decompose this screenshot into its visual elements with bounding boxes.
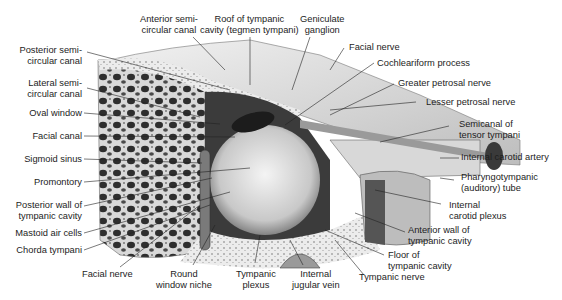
label-line: cavity (tegmen tympani) (200, 25, 299, 36)
label-roof-of-tympanic-cavity: Roof of tympanic cavity (tegmen tympani) (200, 14, 299, 36)
label-sigmoid-sinus: Sigmoid sinus (24, 154, 82, 165)
label-lateral-semicircular-canal: Lateral semi- circular canal (27, 78, 82, 100)
label-facial-canal: Facial canal (32, 131, 82, 142)
label-line: Lateral semi- (27, 78, 82, 89)
label-line: Roof of tympanic (200, 14, 299, 25)
label-internal-jugular-vein: Internal jugular vein (292, 269, 340, 291)
label-line: window niche (156, 280, 212, 291)
label-greater-petrosal-nerve: Greater petrosal nerve (398, 78, 491, 89)
label-line: circular canal (27, 89, 82, 100)
label-internal-carotid-artery: Internal carotid artery (461, 152, 549, 163)
label-line: ganglion (300, 25, 344, 36)
label-line: Semicanal of (459, 119, 520, 130)
label-line: Tympanic (236, 269, 276, 280)
label-line: tympanic cavity (16, 211, 82, 222)
label-line: Geniculate (300, 14, 344, 25)
label-anterior-wall: Anterior wall of tympanic cavity (408, 225, 472, 247)
label-line: Internal carotid artery (461, 152, 549, 163)
label-cochleariform-process: Cochleariform process (377, 58, 470, 69)
label-line: Oval window (29, 108, 82, 119)
label-facial-nerve-top: Facial nerve (349, 42, 400, 53)
label-line: Internal (292, 269, 340, 280)
label-floor-of-tympanic-cavity: Floor of tympanic cavity (388, 250, 452, 272)
label-semicanal-tensor-tympani: Semicanal of tensor tympani (459, 119, 520, 141)
tympanic-cavity-illustration (0, 0, 562, 300)
label-pharyngotympanic-tube: Pharyngotympanic (auditory) tube (461, 172, 538, 194)
label-facial-nerve-bottom: Facial nerve (82, 269, 133, 280)
label-mastoid-air-cells: Mastoid air cells (15, 228, 82, 239)
label-line: Cochleariform process (377, 58, 470, 69)
label-anterior-semicircular-canal: Anterior semi- circular canal (140, 14, 198, 36)
label-line: Anterior semi- (140, 14, 198, 25)
label-line: Lesser petrosal nerve (426, 97, 515, 108)
label-line: Posterior wall of (16, 200, 82, 211)
label-line: tympanic cavity (408, 236, 472, 247)
label-line: tympanic cavity (388, 261, 452, 272)
label-line: jugular vein (292, 280, 340, 291)
label-line: Pharyngotympanic (461, 172, 538, 183)
label-internal-carotid-plexus: Internal carotid plexus (449, 200, 506, 222)
label-chorda-tympani: Chorda tympani (16, 245, 82, 256)
label-geniculate-ganglion: Geniculate ganglion (300, 14, 344, 36)
label-line: Promontory (34, 177, 82, 188)
label-line: tensor tympani (459, 130, 520, 141)
label-line: Mastoid air cells (15, 228, 82, 239)
label-posterior-wall: Posterior wall of tympanic cavity (16, 200, 82, 222)
label-line: Floor of (388, 250, 452, 261)
label-line: Anterior wall of (408, 225, 472, 236)
label-line: Round (156, 269, 212, 280)
label-posterior-semicircular-canal: Posterior semi- circular canal (19, 45, 82, 67)
label-line: Sigmoid sinus (24, 154, 82, 165)
label-oval-window: Oval window (29, 108, 82, 119)
label-line: (auditory) tube (461, 183, 538, 194)
label-tympanic-plexus: Tympanic plexus (236, 269, 276, 291)
label-line: Facial canal (32, 131, 82, 142)
label-line: Facial nerve (349, 42, 400, 53)
label-promontory: Promontory (34, 177, 82, 188)
label-line: Chorda tympani (16, 245, 82, 256)
label-tympanic-nerve: Tympanic nerve (359, 272, 425, 283)
label-line: Greater petrosal nerve (398, 78, 491, 89)
label-line: Facial nerve (82, 269, 133, 280)
label-line: plexus (236, 280, 276, 291)
label-line: circular canal (140, 25, 198, 36)
label-line: Posterior semi- (19, 45, 82, 56)
label-line: Tympanic nerve (359, 272, 425, 283)
label-lesser-petrosal-nerve: Lesser petrosal nerve (426, 97, 515, 108)
label-round-window-niche: Round window niche (156, 269, 212, 291)
anatomy-figure: Anterior semi- circular canal Roof of ty… (0, 0, 562, 300)
label-line: circular canal (19, 56, 82, 67)
label-line: carotid plexus (449, 211, 506, 222)
label-line: Internal (449, 200, 506, 211)
